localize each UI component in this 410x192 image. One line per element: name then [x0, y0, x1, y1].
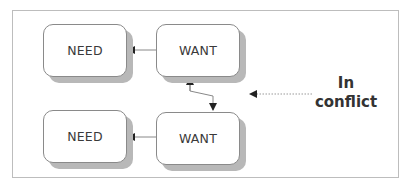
node-label: NEED [67, 43, 103, 58]
annotation-line-1: In [310, 74, 382, 93]
node-need-bottom: NEED [43, 110, 127, 163]
node-label: WANT [179, 43, 217, 58]
node-want-top: WANT [156, 24, 240, 77]
annotation-line-2: conflict [310, 93, 382, 112]
annotation-label: In conflict [310, 74, 382, 112]
node-want-bottom: WANT [156, 112, 240, 165]
node-label: NEED [67, 129, 103, 144]
edge-want-conflict [190, 78, 213, 110]
node-need-top: NEED [43, 24, 127, 77]
node-label: WANT [179, 131, 217, 146]
